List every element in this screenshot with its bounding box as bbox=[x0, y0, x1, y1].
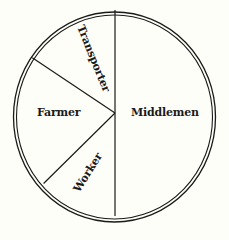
label-farmer: Farmer bbox=[37, 106, 80, 119]
label-middlemen: Middlemen bbox=[131, 106, 199, 119]
